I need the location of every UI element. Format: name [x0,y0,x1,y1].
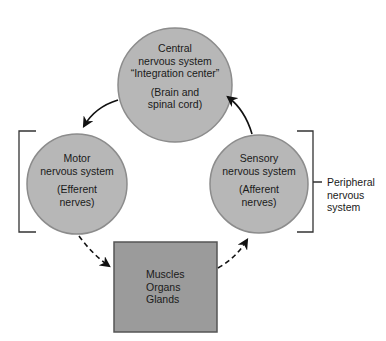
motor-detail-1: (Efferent [27,183,127,196]
central-detail-1: (Brain and [115,86,235,99]
arrow-central-to-motor [84,100,118,126]
motor-title: Motor [27,152,127,165]
peripheral-nervous-system-label: Peripheral nervous system [327,176,375,214]
central-node-text: Central nervous system “Integration cent… [115,42,235,111]
effectors-text: Muscles Organs Glands [146,268,185,306]
effector-glands: Glands [146,293,185,306]
central-role: “Integration center” [115,67,235,80]
sensory-detail-1: (Afferent [210,183,308,196]
sensory-title: Sensory [210,152,308,165]
arrow-effectors-to-sensory [218,240,247,268]
motor-node-text: Motor nervous system (Efferent nerves) [27,152,127,208]
motor-subtitle: nervous system [27,165,127,178]
peripheral-line-2: nervous [327,189,375,202]
motor-detail-2: nerves) [27,196,127,209]
effector-muscles: Muscles [146,268,185,281]
sensory-subtitle: nervous system [210,165,308,178]
peripheral-line-3: system [327,201,375,214]
central-subtitle: nervous system [115,55,235,68]
effector-organs: Organs [146,281,185,294]
central-detail-2: spinal cord) [115,98,235,111]
peripheral-line-1: Peripheral [327,176,375,189]
sensory-node-text: Sensory nervous system (Afferent nerves) [210,152,308,208]
central-title: Central [115,42,235,55]
arrow-motor-to-effectors [79,236,109,266]
sensory-detail-2: nerves) [210,196,308,209]
